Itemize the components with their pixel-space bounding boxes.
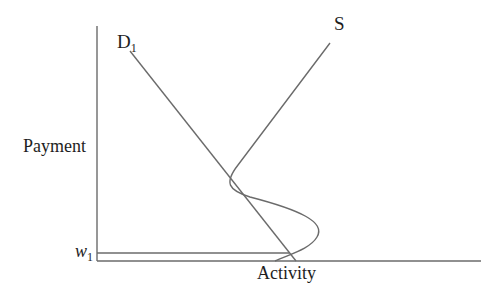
w1-label: w1 [75, 241, 93, 264]
demand-curve-d1 [130, 51, 296, 261]
supply-demand-diagram: D1 S Payment Activity w1 [0, 0, 502, 299]
s-label: S [334, 13, 345, 34]
x-axis-label: Activity [257, 263, 316, 283]
y-axis-label: Payment [23, 136, 86, 156]
d1-label: D1 [117, 31, 137, 55]
supply-curve-s [230, 43, 330, 261]
